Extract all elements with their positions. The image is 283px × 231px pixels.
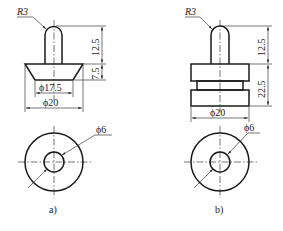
caption-a: a) [49, 204, 57, 216]
height-dimensions-a: 12.5 7.5 [56, 26, 106, 80]
radius-callout-a: R3 [16, 6, 46, 29]
caption-b: b) [215, 204, 223, 216]
diameter-dimensions-b: ϕ20 [191, 107, 249, 122]
dim-height-bottom-a: 7.5 [90, 68, 101, 81]
radius-label-a: R3 [16, 6, 28, 17]
figure-b: R3 12.5 22.5 ϕ20 ϕ6 b) [184, 6, 272, 216]
dim-inner-diameter-a: ϕ17.5 [39, 82, 62, 93]
dim-height-top-b: 12.5 [256, 39, 267, 57]
dim-hole-diameter-b: ϕ6 [244, 122, 254, 133]
radius-label-b: R3 [184, 6, 196, 17]
figure-a: R3 12.5 7.5 ϕ17.5 ϕ20 [16, 6, 112, 216]
dim-hole-diameter-a: ϕ6 [96, 124, 106, 135]
technical-drawing: R3 12.5 7.5 ϕ17.5 ϕ20 [0, 0, 283, 231]
top-view-b: ϕ6 [184, 122, 260, 198]
top-view-a: ϕ6 [18, 124, 112, 198]
dim-outer-diameter-b: ϕ20 [210, 107, 225, 118]
dim-outer-diameter-a: ϕ20 [43, 97, 58, 108]
dim-height-bottom-b: 22.5 [256, 81, 267, 99]
dim-height-top-a: 12.5 [90, 39, 101, 57]
radius-callout-b: R3 [184, 6, 212, 29]
pin-side-view-b [211, 20, 229, 112]
